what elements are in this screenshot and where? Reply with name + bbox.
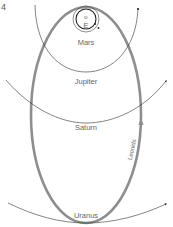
jupiter-dot [137,8,139,10]
leonids-direction-arrow-icon [139,118,144,125]
mars-dot [98,27,100,29]
orbit-diagram: o E Mars Jupiter Saturn Uranus Leonids [0,0,173,227]
sun-label: o [84,14,88,20]
jupiter-label: Jupiter [75,77,98,86]
saturn-label: Saturn [75,123,97,132]
mars-label: Mars [78,38,95,47]
uranus-label: Uranus [74,211,98,220]
earth-label: E [83,21,88,30]
earth-dot [94,23,96,25]
